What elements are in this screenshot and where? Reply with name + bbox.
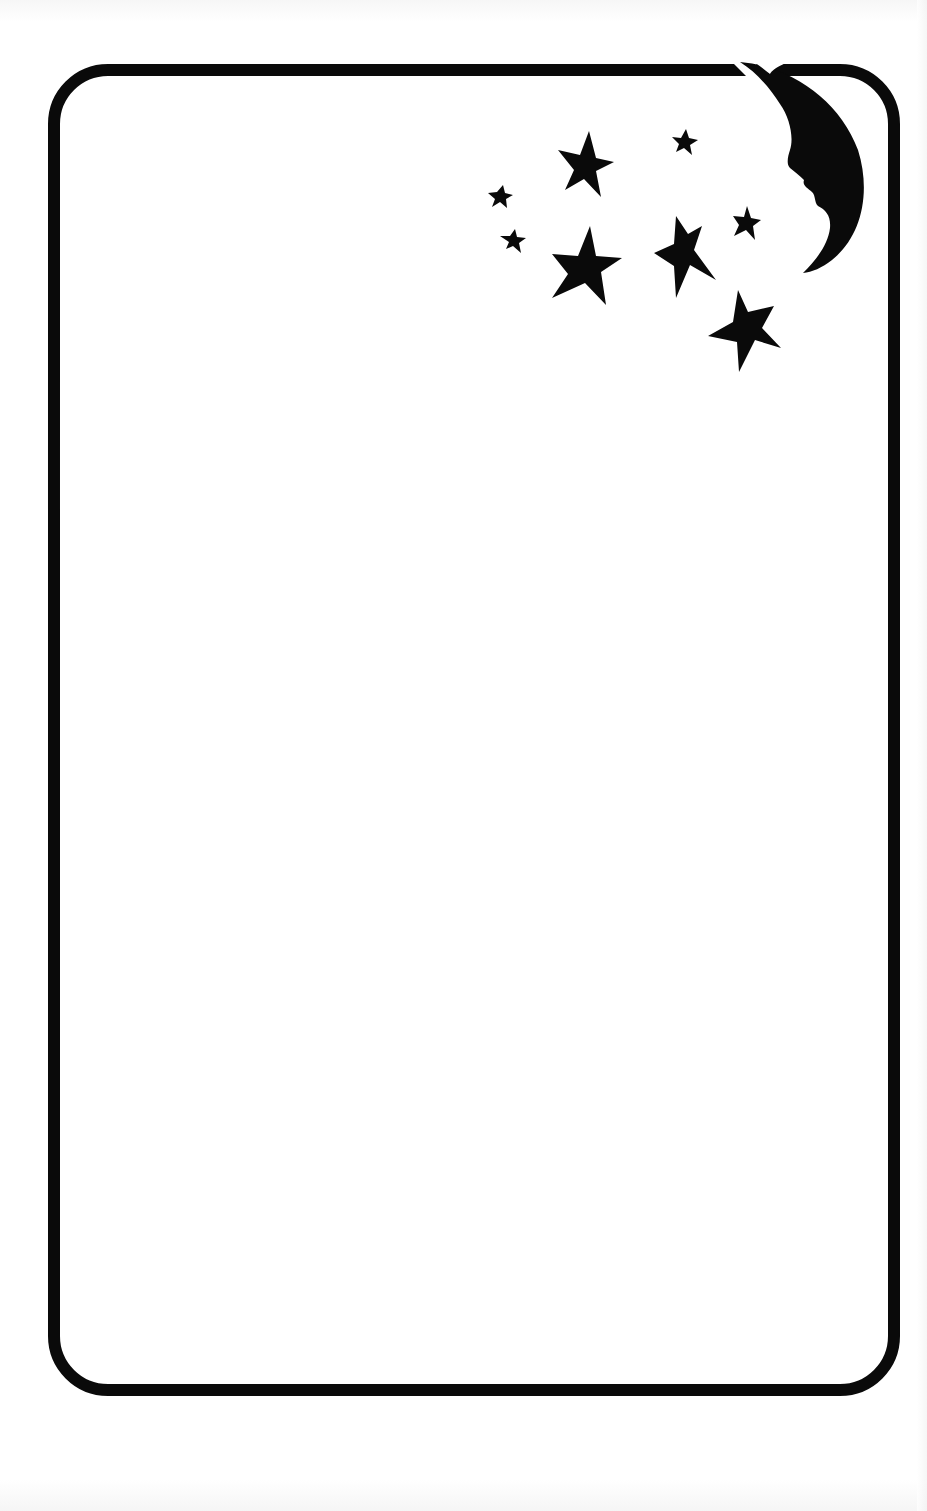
blank-writing-area bbox=[70, 90, 860, 1380]
stationery-page bbox=[0, 0, 927, 1511]
